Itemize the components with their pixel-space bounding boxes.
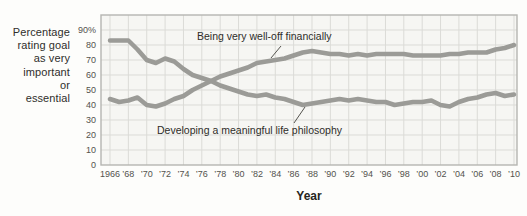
y-tick-label: 30 (57, 115, 96, 126)
y-tick-label: 60 (57, 70, 96, 81)
y-tick-label: 50 (57, 85, 96, 96)
leader-line-financial (271, 46, 281, 58)
freshman-goals-line-chart: Percentagerating goalas veryimportantore… (0, 0, 527, 216)
x-axis-title: Year (101, 189, 517, 203)
y-tick-label: 40 (57, 100, 96, 111)
annotation-philosophy-line: Developing a meaningful life philosophy (157, 124, 342, 136)
y-tick-label: 20 (57, 130, 96, 141)
y-tick-label: 10 (57, 145, 96, 156)
y-tick-label: 70 (57, 55, 96, 66)
annotation-financial-line: Being very well-off financially (197, 30, 332, 42)
y-tick-label: 0 (57, 160, 96, 171)
y-tick-label: 90% (57, 25, 96, 36)
x-tick-label: ’10 (501, 169, 527, 180)
y-tick-label: 80 (57, 40, 96, 51)
leader-line-philosophy (294, 107, 305, 123)
